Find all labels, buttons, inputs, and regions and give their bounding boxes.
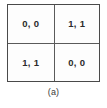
matrix-cell-r1c1: 0, 0 [54,43,100,81]
payoff-matrix-figure: 0, 0 1, 1 1, 1 0, 0 (a) [0,0,107,108]
matrix-cell-r0c0: 0, 0 [8,5,54,43]
figure-caption: (a) [0,88,107,97]
payoff-matrix-table: 0, 0 1, 1 1, 1 0, 0 [7,4,100,82]
matrix-cell-r0c1: 1, 1 [54,5,100,43]
matrix-cell-r1c0: 1, 1 [8,43,54,81]
